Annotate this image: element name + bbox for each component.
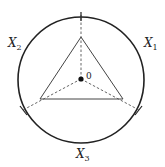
label-x2: X2: [7, 36, 22, 52]
dashed-rays: [23, 15, 139, 110]
inner-triangle: [40, 37, 123, 99]
ray-bottom-left: [23, 79, 81, 110]
center-label: 0: [86, 71, 92, 81]
label-x3: X3: [75, 147, 90, 163]
center-point: [78, 76, 83, 81]
label-x1: X1: [143, 36, 158, 52]
circle-triangle-diagram: 0 X2 X1 X3: [0, 0, 165, 167]
ray-bottom-right: [81, 79, 139, 110]
